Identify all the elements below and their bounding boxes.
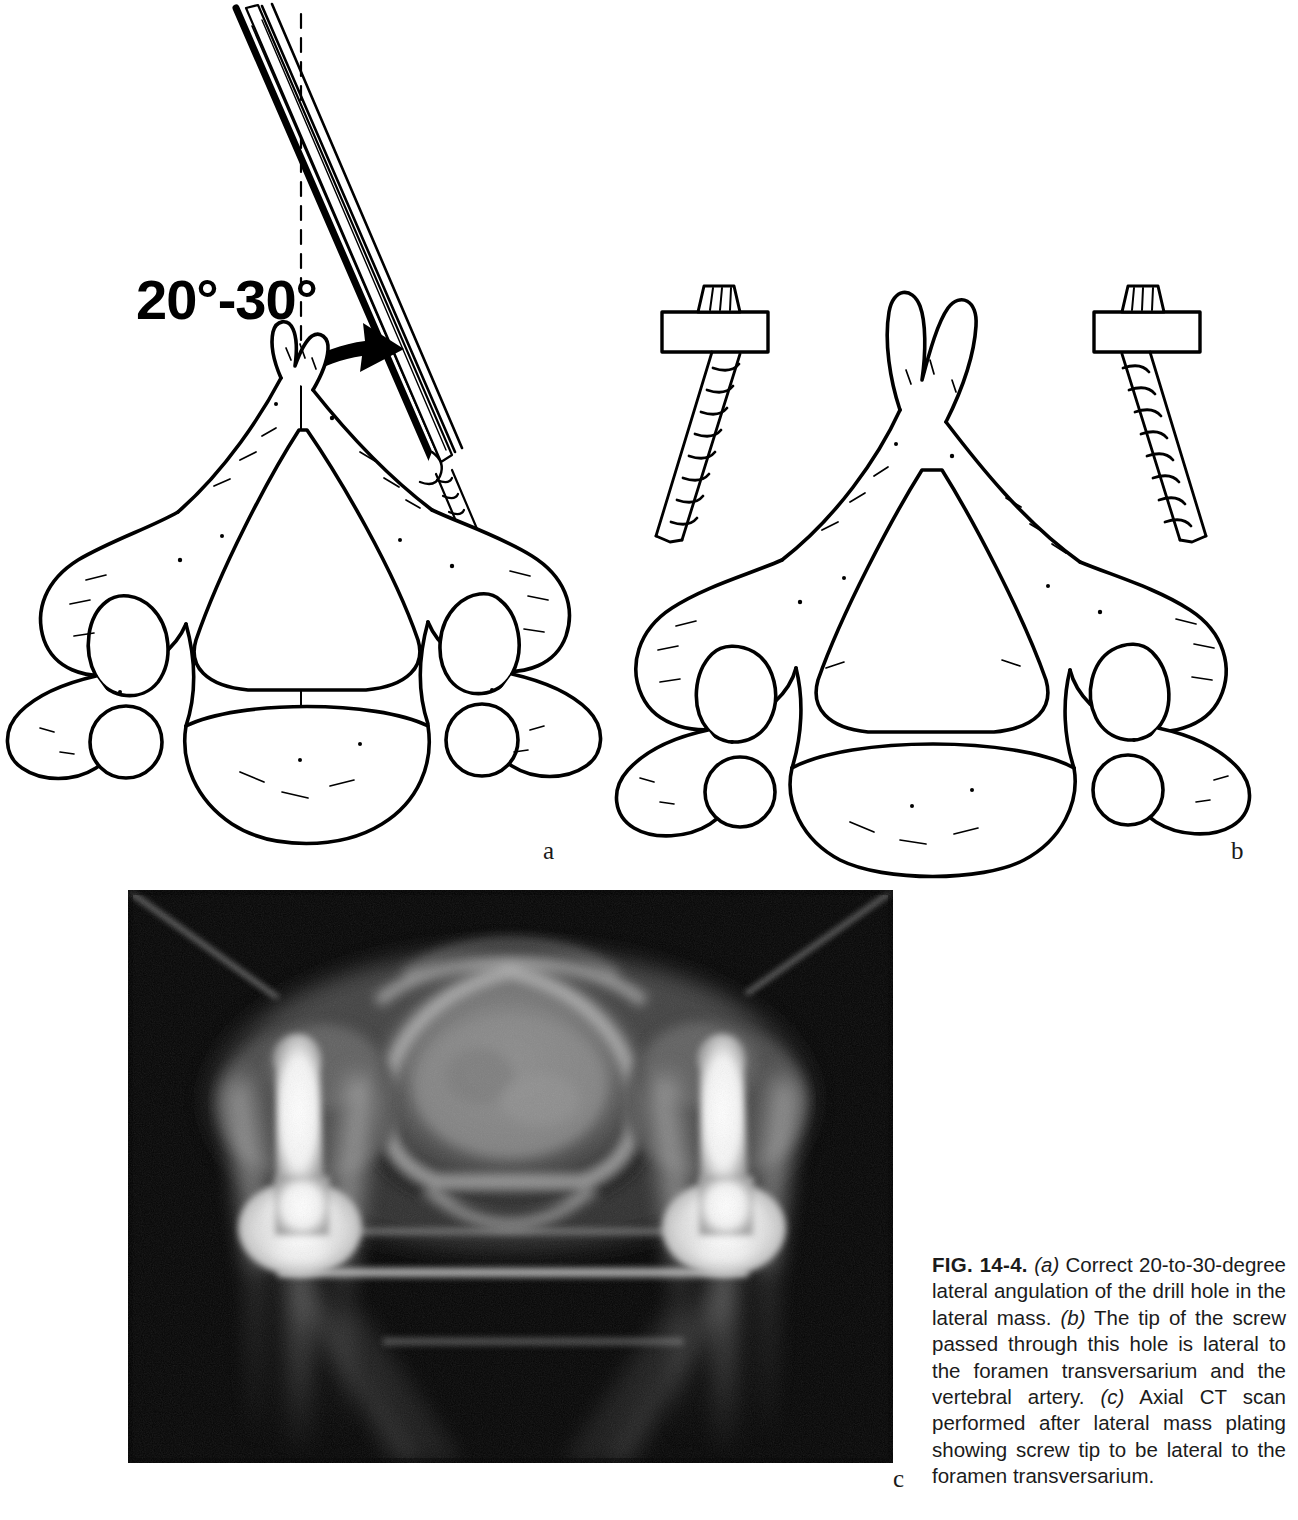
panel-a-vertebra-drawing	[0, 0, 620, 880]
panel-c-ct-scan	[128, 890, 893, 1463]
caption-ref-c: (c)	[1100, 1385, 1124, 1408]
caption-ref-b: (b)	[1060, 1306, 1085, 1329]
panel-label-b: b	[1231, 838, 1244, 863]
right-plate	[1094, 312, 1200, 352]
right-foramen-transversarium-b	[1093, 755, 1163, 825]
left-foramen-transversarium	[90, 706, 162, 778]
vertebra-outline-a	[7, 322, 600, 844]
right-facet	[440, 594, 519, 694]
left-screw-shaft	[656, 352, 740, 542]
right-screw-shaft	[1122, 352, 1206, 542]
left-facet	[88, 596, 168, 696]
right-foramen-transversarium	[446, 704, 518, 776]
panel-label-a: a	[543, 838, 554, 863]
panel-a-illustration: 20°-30°	[0, 0, 620, 880]
body-superior-endplate	[186, 707, 428, 727]
spinal-canal-b	[816, 470, 1048, 732]
figure-number: FIG. 14-4.	[932, 1253, 1028, 1276]
figure-caption: FIG. 14-4. (a) Correct 20-to-30-degree l…	[932, 1252, 1286, 1490]
right-lateral-mass-screw	[1094, 286, 1206, 542]
panel-b-illustration: T. G. Huff	[600, 230, 1298, 880]
left-screw-head	[698, 286, 740, 312]
vertebra-outline-b	[617, 292, 1250, 876]
left-plate	[662, 312, 768, 352]
panel-b-vertebra-drawing	[600, 230, 1298, 880]
caption-ref-a: (a)	[1034, 1253, 1059, 1276]
ct-axial-image	[128, 890, 893, 1463]
left-lateral-mass-screw	[656, 286, 768, 542]
left-foramen-transversarium-b	[705, 757, 775, 827]
ct-film-grain	[128, 890, 893, 1463]
angle-label: 20°-30°	[136, 272, 317, 328]
figure-page: 20°-30°	[0, 0, 1298, 1520]
panel-label-c: c	[893, 1466, 904, 1491]
angle-text: 20°-30°	[136, 268, 317, 331]
body-endplate-b	[792, 744, 1074, 768]
